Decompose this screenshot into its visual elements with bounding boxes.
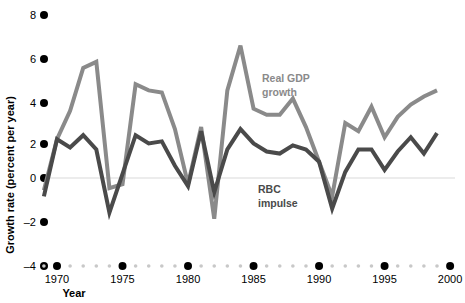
x-tick-label-1975: 1975 xyxy=(110,273,134,285)
x-tick-dot-1975 xyxy=(119,262,127,270)
rbc-annotation: RBC impulse xyxy=(258,183,298,209)
x-tick-dot-1994 xyxy=(370,264,374,268)
x-tick-dot-1993 xyxy=(357,264,361,268)
x-tick-dot-1977 xyxy=(147,264,151,268)
x-tick-label-1990: 1990 xyxy=(307,273,331,285)
y-tick-label-0: 0 xyxy=(30,172,36,184)
x-tick-dot-1973 xyxy=(95,264,99,268)
x-axis-tick-labels: 1970197519801985199019952000 xyxy=(45,273,463,285)
x-tick-dot-1991 xyxy=(330,264,334,268)
x-tick-dot-1981 xyxy=(199,264,203,268)
y-tick-label-neg4: –4 xyxy=(24,260,36,272)
series-group xyxy=(44,46,437,219)
rbc-annotation-line2: impulse xyxy=(258,197,298,209)
x-tick-dot-1998 xyxy=(422,264,426,268)
x-tick-dot-1978 xyxy=(160,264,164,268)
x-tick-dot-1999 xyxy=(435,264,439,268)
x-tick-dot-1984 xyxy=(239,264,243,268)
y-axis-title: Growth rate (percent per year) xyxy=(4,96,16,254)
x-tick-dot-1982 xyxy=(212,264,216,268)
x-tick-dot-2000 xyxy=(446,262,454,270)
x-tick-dot-1979 xyxy=(173,264,177,268)
y-tick-label-6: 6 xyxy=(30,53,36,65)
x-tick-label-1970: 1970 xyxy=(45,273,69,285)
x-tick-dot-1974 xyxy=(108,264,112,268)
x-axis-tick-dots xyxy=(42,262,454,270)
line-chart: 8 6 4 2 0 –2 –4 197019751980198519901995… xyxy=(0,0,465,303)
x-tick-label-1995: 1995 xyxy=(372,273,396,285)
x-tick-label-2000: 2000 xyxy=(438,273,462,285)
y-tick-label-2: 2 xyxy=(30,138,36,150)
x-tick-dot-1986 xyxy=(265,264,269,268)
x-tick-dot-1983 xyxy=(226,264,230,268)
y-axis-tick-dots xyxy=(40,11,48,270)
x-tick-label-1980: 1980 xyxy=(176,273,200,285)
rbc-annotation-line1: RBC xyxy=(258,183,281,195)
y-tick-label-8: 8 xyxy=(30,9,36,21)
x-tick-dot-1970 xyxy=(53,262,61,270)
gdp-annotation-line1: Real GDP xyxy=(262,72,310,84)
x-tick-dot-1971 xyxy=(68,264,72,268)
gdp-annotation: Real GDP growth xyxy=(262,72,310,98)
gdp-annotation-line2: growth xyxy=(262,86,297,98)
y-tick-dot-2 xyxy=(40,140,48,148)
x-axis-title: Year xyxy=(62,287,86,299)
y-tick-dot-6 xyxy=(40,55,48,63)
x-tick-dot-1990 xyxy=(315,262,323,270)
y-axis-tick-labels: 8 6 4 2 0 –2 –4 xyxy=(24,9,36,272)
x-tick-dot-1989 xyxy=(304,264,308,268)
x-tick-dot-1988 xyxy=(291,264,295,268)
x-tick-dot-1987 xyxy=(278,264,282,268)
chart-container: 8 6 4 2 0 –2 –4 197019751980198519901995… xyxy=(0,0,465,303)
x-tick-label-1985: 1985 xyxy=(241,273,265,285)
y-tick-label-4: 4 xyxy=(30,97,36,109)
x-tick-dot-1995 xyxy=(381,262,389,270)
y-tick-label-neg2: –2 xyxy=(24,216,36,228)
x-tick-dot-1996 xyxy=(396,264,400,268)
y-tick-dot-8 xyxy=(40,11,48,19)
x-tick-dot-1992 xyxy=(343,264,347,268)
y-tick-dot-neg2 xyxy=(40,218,48,226)
x-tick-dot-1985 xyxy=(250,262,258,270)
x-tick-dot-1976 xyxy=(134,264,138,268)
x-tick-dot-1997 xyxy=(409,264,413,268)
x-tick-dot-1972 xyxy=(81,264,85,268)
x-tick-dot-1980 xyxy=(184,262,192,270)
x-tick-dot-1969 xyxy=(42,264,46,268)
y-tick-dot-4 xyxy=(40,99,48,107)
